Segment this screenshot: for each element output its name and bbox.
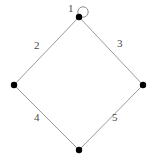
edge-label-4: 4 (34, 112, 40, 123)
vertex-bottom[interactable] (76, 147, 82, 153)
edge-label-2: 2 (34, 40, 40, 51)
edge-top-left[interactable] (14, 17, 79, 85)
edge-label-5: 5 (112, 112, 118, 123)
edge-label-1: 1 (68, 3, 74, 14)
vertex-right[interactable] (140, 82, 146, 88)
edge-left-bottom[interactable] (14, 85, 79, 150)
graph-diagram: 1 2 3 4 5 (0, 0, 155, 159)
edge-top-right[interactable] (79, 17, 143, 85)
vertex-left[interactable] (11, 82, 17, 88)
edge-label-3: 3 (117, 38, 123, 49)
graph-canvas (0, 0, 155, 159)
edge-right-bottom[interactable] (79, 85, 143, 150)
vertex-group (11, 14, 146, 153)
vertex-top[interactable] (76, 14, 82, 20)
edge-group (14, 7, 143, 150)
